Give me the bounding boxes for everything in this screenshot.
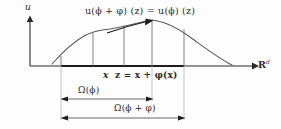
point-x-label: x bbox=[103, 71, 109, 80]
vertical-axis bbox=[27, 16, 34, 67]
horizontal-axis-label: Rd bbox=[258, 60, 270, 70]
blackboard-r-symbol: R bbox=[258, 60, 266, 70]
profile-curve bbox=[52, 20, 232, 65]
point-z-expression-label: z = x + φ(x) bbox=[115, 71, 178, 80]
math-figure: u u(ϕ + φ) (z) = u(ϕ) (z) Rd x z = x + φ… bbox=[0, 0, 281, 129]
omega-phi-span bbox=[61, 97, 154, 102]
vertical-axis-label: u bbox=[25, 3, 31, 12]
top-equation-label: u(ϕ + φ) (z) = u(ϕ) (z) bbox=[85, 6, 195, 16]
dimension-exponent: d bbox=[266, 59, 270, 65]
omega-phi-plus-varphi-label: Ω(ϕ + φ) bbox=[114, 104, 156, 113]
omega-phi-label: Ω(ϕ) bbox=[78, 86, 99, 95]
displacement-arrow bbox=[107, 19, 154, 33]
omega-phi-plus-varphi-span bbox=[61, 116, 186, 121]
